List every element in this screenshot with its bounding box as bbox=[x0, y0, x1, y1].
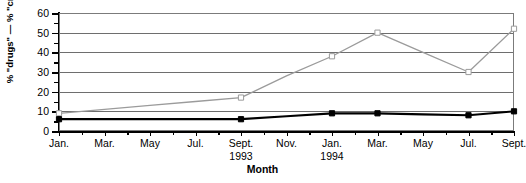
data-point-crime-4 bbox=[466, 113, 471, 118]
data-point-crime-1 bbox=[238, 117, 243, 122]
data-point-drugs-5 bbox=[511, 26, 516, 31]
x-tick-6 bbox=[332, 131, 333, 136]
x-tick-label-9: Jul. bbox=[460, 137, 476, 149]
x-tick-label-10: Sept. bbox=[502, 137, 526, 149]
x-tick-1 bbox=[105, 131, 106, 136]
plot-area bbox=[59, 13, 514, 131]
x-tick-label-7: Mar. bbox=[367, 137, 387, 149]
x-tick-8 bbox=[423, 131, 424, 136]
x-tick-minor-5 bbox=[309, 131, 310, 135]
x-tick-label-8: May bbox=[413, 137, 433, 149]
data-point-drugs-1 bbox=[238, 95, 243, 100]
x-tick-minor-3 bbox=[218, 131, 219, 135]
x-tick-0 bbox=[59, 131, 60, 136]
x-tick-label-5: Nov. bbox=[276, 137, 297, 149]
data-point-crime-2 bbox=[329, 111, 334, 116]
x-tick-7 bbox=[378, 131, 379, 136]
x-tick-minor-6 bbox=[355, 131, 356, 135]
x-tick-label-3: Jul. bbox=[187, 137, 203, 149]
x-tick-10 bbox=[514, 131, 515, 136]
data-point-drugs-2 bbox=[329, 54, 334, 59]
y-tick-40 bbox=[52, 52, 59, 54]
series-layer bbox=[59, 13, 514, 131]
x-tick-9 bbox=[469, 131, 470, 136]
y-tick-label-50: 50 bbox=[20, 27, 49, 39]
x-tick-5 bbox=[287, 131, 288, 136]
x-tick-label-2: May bbox=[140, 137, 160, 149]
x-tick-year-4: 1993 bbox=[229, 150, 252, 162]
y-tick-label-20: 20 bbox=[20, 86, 49, 98]
x-tick-label-0: Jan. bbox=[49, 137, 69, 149]
x-tick-minor-8 bbox=[446, 131, 447, 135]
data-point-drugs-4 bbox=[466, 69, 471, 74]
y-tick-label-30: 30 bbox=[20, 66, 49, 78]
y-tick-label-60: 60 bbox=[20, 7, 49, 19]
y-tick-60 bbox=[52, 13, 59, 15]
y-tick-label-0: 0 bbox=[20, 125, 49, 137]
x-tick-year-6: 1994 bbox=[320, 150, 343, 162]
x-tick-4 bbox=[241, 131, 242, 136]
x-tick-minor-4 bbox=[264, 131, 265, 135]
x-tick-minor-0 bbox=[82, 131, 83, 135]
y-tick-label-40: 40 bbox=[20, 46, 49, 58]
data-point-crime-0 bbox=[56, 117, 61, 122]
x-tick-label-4: Sept. bbox=[229, 137, 254, 149]
data-point-crime-5 bbox=[511, 109, 516, 114]
y-tick-30 bbox=[52, 72, 59, 74]
x-tick-label-1: Mar. bbox=[94, 137, 114, 149]
x-tick-minor-7 bbox=[400, 131, 401, 135]
x-axis-title: Month bbox=[0, 163, 525, 175]
data-point-drugs-0 bbox=[56, 111, 61, 116]
x-tick-minor-1 bbox=[127, 131, 128, 135]
series-line-drugs bbox=[59, 29, 514, 114]
y-tick-label-10: 10 bbox=[20, 105, 49, 117]
x-tick-minor-2 bbox=[173, 131, 174, 135]
data-point-drugs-3 bbox=[375, 30, 380, 35]
y-tick-20 bbox=[52, 92, 59, 94]
x-tick-3 bbox=[196, 131, 197, 136]
series-line-crime bbox=[59, 111, 514, 119]
x-tick-label-6: Jan. bbox=[322, 137, 342, 149]
x-tick-minor-9 bbox=[491, 131, 492, 135]
x-tick-2 bbox=[150, 131, 151, 136]
data-point-crime-3 bbox=[375, 111, 380, 116]
y-tick-50 bbox=[52, 33, 59, 35]
y-axis-title: % "drugs" — % "crime" bbox=[4, 0, 20, 88]
